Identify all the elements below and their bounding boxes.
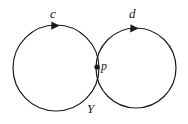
- c-direction-arrow-icon: [51, 22, 59, 30]
- basepoint-label: p: [101, 60, 107, 72]
- left-loop-label: c: [50, 7, 56, 20]
- d-direction-arrow-icon: [130, 24, 138, 32]
- figure-container: c d p Y: [0, 0, 188, 124]
- right-loop-label: d: [129, 7, 136, 20]
- right-loop-circle: [96, 28, 176, 108]
- space-label: Y: [87, 102, 94, 115]
- left-loop-circle: [13, 25, 99, 111]
- basepoint-dot-icon: [94, 64, 99, 69]
